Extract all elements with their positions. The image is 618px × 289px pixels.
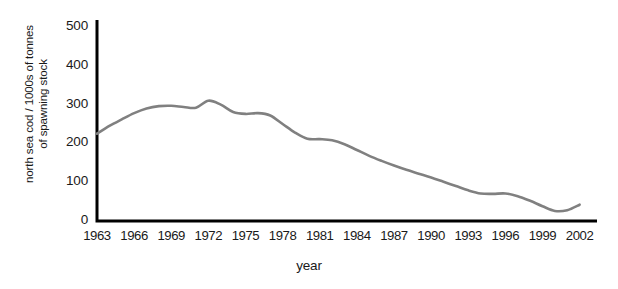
chart-container: north sea cod / 1000s of tonnes of spawn… [0,0,618,289]
plot-area [0,0,618,289]
data-series-line [97,101,580,212]
axis-lines [97,20,597,221]
x-axis-title: year [0,258,618,273]
